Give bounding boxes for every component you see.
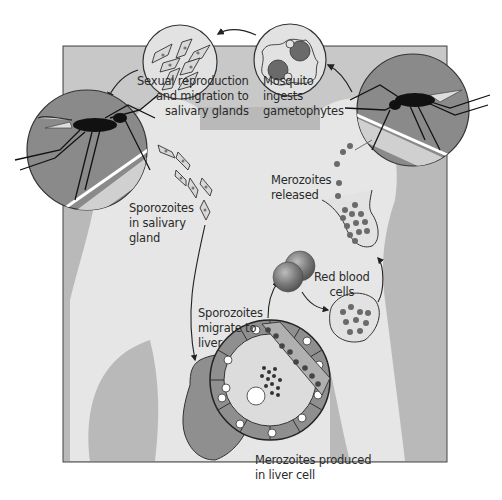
label-mosquito-ingests: Mosquito ingests gametophytes (263, 74, 344, 119)
malaria-life-cycle-diagram (0, 0, 502, 500)
label-merozoites-released: Merozoites released (271, 173, 331, 203)
arrow-gametophyte-to-sexual (218, 30, 256, 35)
label-red-blood-cells: Red blood cells (314, 270, 370, 300)
label-sexual-reproduction: Sexual reproduction and migration to sal… (137, 74, 249, 119)
label-sporozoites-migrate: Sporozoites migrate to liver (198, 306, 263, 351)
label-sporozoites-salivary: Sporozoites in salivary gland (129, 201, 194, 246)
label-merozoites-produced: Merozoites produced in liver cell (255, 453, 371, 483)
